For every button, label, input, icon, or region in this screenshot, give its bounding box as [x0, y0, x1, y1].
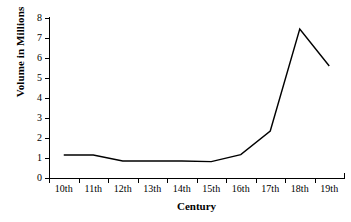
- x-tick-mark: [79, 178, 80, 183]
- y-tick-mark: [45, 18, 49, 19]
- x-axis-end-tick: [344, 173, 345, 179]
- x-tick-label: 19th: [309, 184, 349, 194]
- y-tick-label: 8: [18, 13, 42, 23]
- y-tick-label: 3: [18, 113, 42, 123]
- y-tick-mark: [45, 118, 49, 119]
- y-tick-mark: [45, 78, 49, 79]
- y-tick-mark: [45, 38, 49, 39]
- line-chart: Volume in Millions 012345678 10th11th12t…: [0, 0, 351, 222]
- x-tick-mark: [138, 178, 139, 183]
- y-tick-label: 5: [18, 73, 42, 83]
- x-tick-mark: [108, 178, 109, 183]
- y-tick-label: 4: [18, 93, 42, 103]
- x-tick-mark: [256, 178, 257, 183]
- x-tick-mark: [226, 178, 227, 183]
- x-axis-title: Century: [49, 200, 344, 212]
- y-tick-label: 0: [18, 173, 42, 183]
- y-axis-line: [49, 17, 50, 179]
- y-tick-label: 6: [18, 53, 42, 63]
- y-tick-mark: [45, 138, 49, 139]
- x-tick-mark: [315, 178, 316, 183]
- y-tick-mark: [45, 158, 49, 159]
- y-tick-label: 2: [18, 133, 42, 143]
- y-tick-label: 7: [18, 33, 42, 43]
- x-tick-mark: [49, 178, 50, 183]
- x-tick-mark: [167, 178, 168, 183]
- y-tick-label: 1: [18, 153, 42, 163]
- y-tick-mark: [45, 58, 49, 59]
- y-tick-mark: [45, 98, 49, 99]
- x-tick-mark: [285, 178, 286, 183]
- x-tick-mark: [197, 178, 198, 183]
